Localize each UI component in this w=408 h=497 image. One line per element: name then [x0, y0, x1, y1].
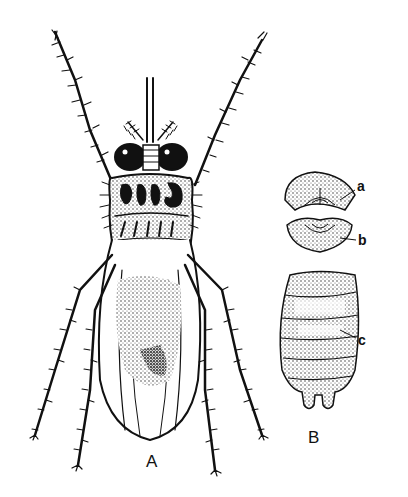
- part-a-label: a: [357, 178, 365, 194]
- part-c-label: c: [358, 332, 366, 348]
- part-b-label: b: [358, 232, 367, 248]
- illustration: [0, 0, 408, 497]
- dissected-parts-b: [280, 172, 358, 409]
- insect-drawing: [0, 0, 408, 497]
- panel-a-label: A: [146, 452, 157, 472]
- insect-a: [30, 30, 268, 476]
- panel-b-label: B: [308, 428, 319, 448]
